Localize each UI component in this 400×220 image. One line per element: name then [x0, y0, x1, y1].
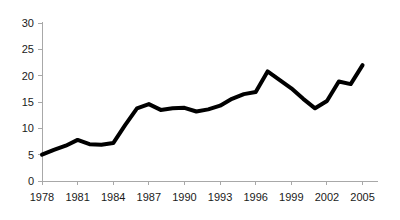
x-axis-tick-label: 2005 — [350, 191, 374, 203]
x-axis-tick-group: 1978198119841987199019931996199920022005 — [30, 181, 375, 203]
y-axis-tick-label: 20 — [22, 70, 34, 82]
y-axis: 051015202530 — [22, 17, 42, 187]
x-axis-tick-label: 1978 — [30, 191, 54, 203]
x-axis-tick-label: 1990 — [172, 191, 196, 203]
y-axis-tick-label: 10 — [22, 122, 34, 134]
y-axis-tick-label: 0 — [28, 175, 34, 187]
chart-canvas: 051015202530 197819811984198719901993199… — [0, 0, 400, 220]
data-series-line — [42, 65, 363, 155]
x-axis-tick-label: 1996 — [243, 191, 267, 203]
x-axis-tick-label: 2002 — [315, 191, 339, 203]
y-axis-tick-label: 15 — [22, 96, 34, 108]
x-axis-tick-label: 1987 — [137, 191, 161, 203]
x-axis-tick-label: 1984 — [101, 191, 125, 203]
y-axis-tick-group: 051015202530 — [22, 17, 42, 187]
x-axis: 1978198119841987199019931996199920022005 — [30, 181, 378, 203]
y-axis-tick-label: 25 — [22, 43, 34, 55]
x-axis-tick-label: 1981 — [65, 191, 89, 203]
line-chart: 051015202530 197819811984198719901993199… — [0, 0, 400, 220]
x-axis-tick-label: 1993 — [208, 191, 232, 203]
x-axis-tick-label: 1999 — [279, 191, 303, 203]
plot-area — [42, 65, 363, 155]
y-axis-tick-label: 30 — [22, 17, 34, 29]
y-axis-tick-label: 5 — [28, 149, 34, 161]
